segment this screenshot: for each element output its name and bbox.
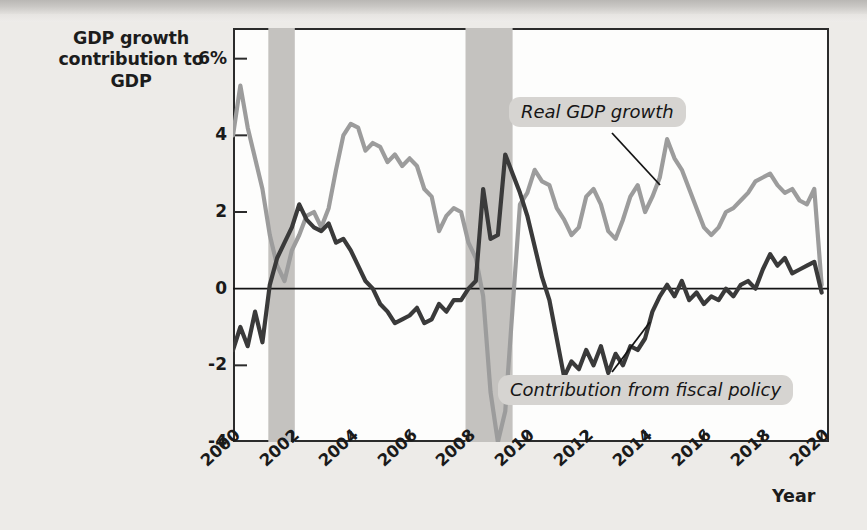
x-axis-tick-label: 2002 [256,425,303,470]
x-axis-tick-label: 2016 [668,425,715,470]
x-axis-tick-label: 2006 [374,425,421,470]
x-axis-tick-label: 2004 [315,425,362,470]
x-axis-tick-label: 2008 [432,425,479,470]
real-gdp-growth-callout: Real GDP growth [509,97,686,127]
x-axis-tick-label: 2000 [197,425,244,470]
chart-figure: GDP growth contribution to GDP 6%420-2-4… [0,0,867,530]
x-axis-tick-label: 2014 [609,425,656,470]
x-axis-tick-labels: 2000200220042006200820102012201420162018… [0,0,867,530]
fiscal-policy-callout: Contribution from fiscal policy [498,375,793,405]
x-axis-title: Year [772,486,815,506]
x-axis-tick-label: 2012 [550,425,597,470]
x-axis-tick-label: 2010 [491,425,538,470]
x-axis-tick-label: 2018 [727,425,774,470]
x-axis-tick-label: 2020 [786,425,833,470]
